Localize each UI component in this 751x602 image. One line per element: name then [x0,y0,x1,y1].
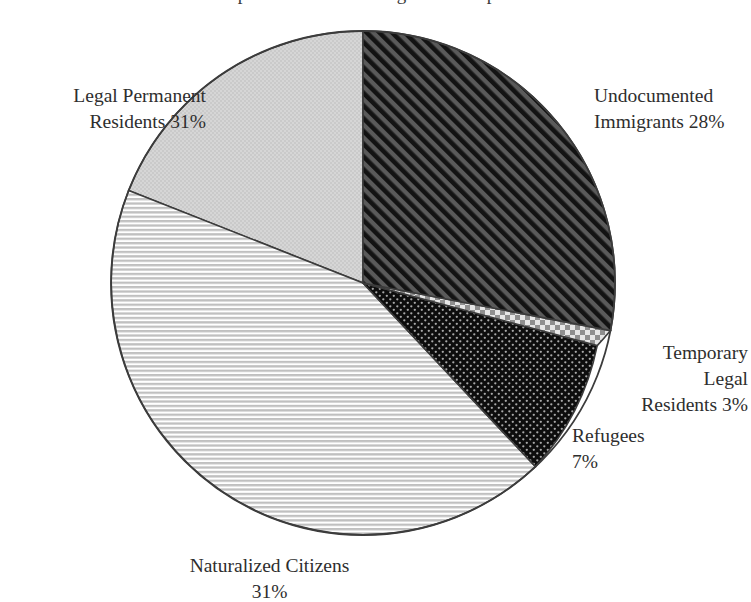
pie-slice-undocumented-immigrants[interactable] [363,31,615,331]
pie-label-temporary-legal-residents: Temporary Legal Residents 3% [598,340,748,418]
pie-chart-figure: Composition of the Foreign-Born Populati… [0,0,751,602]
pie-label-refugees: Refugees 7% [572,423,747,475]
pie-label-legal-permanent-residents: Legal Permanent Residents 31% [6,83,206,135]
pie-label-undocumented-immigrants: Undocumented Immigrants 28% [594,83,751,135]
pie-label-naturalized-citizens: Naturalized Citizens 31% [128,553,411,602]
